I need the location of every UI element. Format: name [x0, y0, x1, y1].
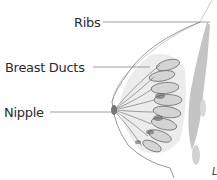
breast-ducts-label: Breast Ducts — [5, 61, 85, 74]
ribs-shading — [188, 22, 210, 150]
ribs-label: Ribs — [74, 16, 100, 29]
cropped-label-fragment: L — [212, 166, 217, 177]
breast-anatomy-diagram: Ribs Breast Ducts Nipple L — [0, 0, 217, 180]
rib-oval — [200, 99, 206, 117]
nipple-shape — [111, 105, 117, 115]
breast-anatomy-illustration — [0, 0, 217, 180]
nipple-label: Nipple — [4, 106, 44, 119]
rib-oval — [192, 145, 200, 165]
